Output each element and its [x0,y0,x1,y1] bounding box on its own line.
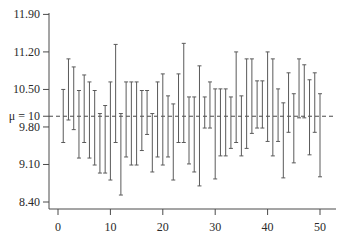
confidence-interval [140,91,144,151]
confidence-interval [124,82,128,157]
y-tick-label: 11.20 [13,45,40,59]
confidence-interval [166,96,170,157]
confidence-interval [177,74,181,143]
y-tick-label: 11.90 [13,7,40,21]
y-tick-label: 9.10 [19,157,40,171]
confidence-interval [98,114,102,173]
confidence-interval [218,89,222,156]
confidence-interval [213,89,217,179]
confidence-interval [87,82,91,158]
confidence-interval [224,89,228,156]
confidence-interval [271,59,275,156]
confidence-interval [72,67,76,130]
x-axis: 01020304050 [49,209,336,234]
confidence-interval [239,96,243,156]
confidence-interval [281,103,285,178]
x-tick-label: 20 [157,220,169,234]
confidence-interval [292,94,296,163]
confidence-interval [156,82,160,157]
confidence-interval [260,81,264,128]
confidence-interval [114,44,118,142]
confidence-interval [287,73,291,132]
confidence-interval [276,89,280,142]
confidence-interval [266,52,270,142]
x-tick-label: 0 [55,220,61,234]
confidence-interval [318,94,322,177]
confidence-interval [245,59,249,149]
confidence-interval [119,114,123,195]
x-tick-label: 40 [262,220,274,234]
x-tick-label: 10 [104,220,116,234]
confidence-interval [77,91,81,159]
confidence-interval [250,59,254,134]
confidence-interval-chart: 11.9011.2010.509.809.108.40μ = 10 010203… [0,0,342,239]
y-tick-label: 10.50 [13,82,40,96]
x-tick-label: 30 [209,220,221,234]
y-axis: 11.9011.2010.509.809.108.40μ = 10 [9,7,49,209]
confidence-interval [66,59,70,120]
confidence-interval [129,82,133,165]
confidence-intervals [61,43,322,195]
confidence-interval [313,73,317,132]
confidence-interval [150,114,154,172]
confidence-interval [93,91,97,166]
confidence-interval [135,82,139,165]
confidence-interval [192,97,196,172]
confidence-interval [108,82,112,180]
confidence-interval [255,81,259,128]
confidence-interval [145,91,149,135]
confidence-interval [171,104,175,180]
confidence-interval [82,75,86,143]
confidence-interval [103,106,107,174]
confidence-interval [297,59,301,118]
x-tick-label: 50 [314,220,326,234]
confidence-interval [308,80,312,155]
confidence-interval [208,82,212,128]
confidence-interval [187,97,191,164]
confidence-interval [229,97,233,148]
confidence-interval [302,65,306,118]
confidence-interval [182,43,186,142]
mu-label: μ = 10 [9,109,40,123]
confidence-interval [197,66,201,186]
confidence-interval [234,52,238,143]
confidence-interval [203,97,207,128]
confidence-interval [161,74,165,165]
y-tick-label: 8.40 [19,195,40,209]
